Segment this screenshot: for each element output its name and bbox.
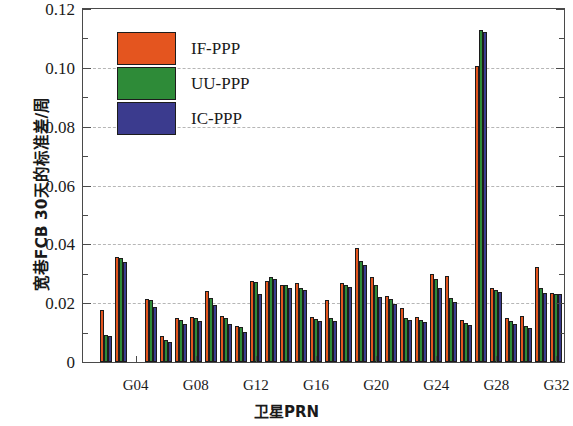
- bar: [168, 342, 172, 362]
- x-tick-label: G24: [423, 377, 449, 394]
- bar: [513, 324, 517, 362]
- bar: [393, 304, 397, 362]
- legend-label: IC-PPP: [191, 109, 242, 129]
- bar: [363, 265, 367, 362]
- y-tick-minor-right: [559, 97, 564, 98]
- bar: [408, 320, 412, 362]
- legend-item: UU-PPP: [117, 66, 250, 101]
- y-tick-minor: [83, 274, 88, 275]
- bar: [378, 297, 382, 362]
- x-tick-label: G20: [363, 377, 389, 394]
- bar: [423, 322, 427, 362]
- bar: [258, 294, 262, 362]
- y-tick: [83, 9, 91, 10]
- y-tick-label: 0.04: [5, 236, 75, 253]
- y-tick-label: 0.08: [5, 118, 75, 135]
- y-tick-label: 0.02: [5, 295, 75, 312]
- legend-label: IF-PPP: [191, 39, 240, 59]
- y-tick: [83, 127, 91, 128]
- y-tick: [83, 68, 91, 69]
- y-tick-label: 0.12: [5, 1, 75, 18]
- bar: [288, 288, 292, 362]
- bar: [198, 321, 202, 362]
- bar: [528, 328, 532, 362]
- x-tick-label: G12: [243, 377, 269, 394]
- bar: [558, 294, 562, 362]
- x-tick-label: G28: [483, 377, 509, 394]
- x-tick: [196, 356, 197, 362]
- gridline: [83, 244, 564, 245]
- bar: [438, 288, 442, 362]
- y-tick-right: [556, 303, 564, 304]
- y-tick-minor: [83, 97, 88, 98]
- bar: [123, 262, 127, 362]
- bar: [228, 324, 232, 362]
- legend-swatch: [117, 102, 176, 135]
- bar: [108, 336, 112, 362]
- legend-swatch: [117, 67, 176, 100]
- y-tick-right: [556, 186, 564, 187]
- y-tick-minor-right: [559, 274, 564, 275]
- plot-area: IF-PPPUU-PPPIC-PPP 00.020.040.060.080.10…: [82, 8, 565, 363]
- y-tick-minor: [83, 215, 88, 216]
- x-axis-title: 卫星PRN: [0, 400, 573, 421]
- bar: [498, 292, 502, 362]
- x-tick: [376, 356, 377, 362]
- legend-item: IC-PPP: [117, 101, 250, 136]
- y-tick: [83, 186, 91, 187]
- y-tick-label: 0.10: [5, 59, 75, 76]
- bar: [468, 325, 472, 362]
- y-tick-right: [556, 9, 564, 10]
- bar: [543, 293, 547, 362]
- x-tick-label: G32: [544, 377, 570, 394]
- y-tick-minor: [83, 38, 88, 39]
- y-tick-label: 0: [5, 354, 75, 371]
- bar: [483, 32, 487, 362]
- legend-swatch: [117, 32, 176, 65]
- y-tick: [83, 362, 91, 363]
- bar: [273, 279, 277, 362]
- y-tick-minor-right: [559, 333, 564, 334]
- y-tick-right: [556, 127, 564, 128]
- y-tick-label: 0.06: [5, 177, 75, 194]
- x-tick: [256, 356, 257, 362]
- gridline: [83, 186, 564, 187]
- y-tick-right: [556, 244, 564, 245]
- chart-legend: IF-PPPUU-PPPIC-PPP: [117, 31, 250, 136]
- y-tick-right: [556, 362, 564, 363]
- x-tick-label: G04: [123, 377, 149, 394]
- y-tick-minor: [83, 156, 88, 157]
- figure: 宽巷FCB 30天的标准差/周 IF-PPPUU-PPPIC-PPP 00.02…: [0, 0, 573, 426]
- x-tick-label: G08: [183, 377, 209, 394]
- y-tick-minor: [83, 333, 88, 334]
- x-tick: [556, 356, 557, 362]
- y-tick-minor-right: [559, 215, 564, 216]
- y-tick: [83, 244, 91, 245]
- bar: [453, 302, 457, 362]
- y-tick-right: [556, 68, 564, 69]
- bar: [243, 332, 247, 362]
- x-tick: [316, 356, 317, 362]
- y-tick-minor-right: [559, 156, 564, 157]
- bar: [348, 287, 352, 362]
- legend-item: IF-PPP: [117, 31, 250, 66]
- x-tick: [436, 356, 437, 362]
- bar: [213, 305, 217, 362]
- bar: [183, 324, 187, 362]
- bar: [153, 307, 157, 362]
- x-tick-label: G16: [303, 377, 329, 394]
- bar: [318, 321, 322, 362]
- legend-label: UU-PPP: [191, 74, 250, 94]
- y-tick: [83, 303, 91, 304]
- x-tick: [496, 356, 497, 362]
- bar: [333, 321, 337, 362]
- y-tick-minor-right: [559, 38, 564, 39]
- x-tick: [136, 356, 137, 362]
- bar: [303, 290, 307, 362]
